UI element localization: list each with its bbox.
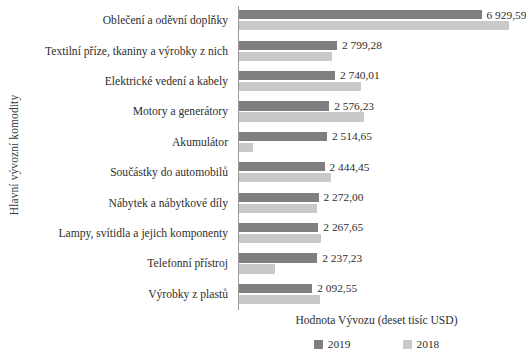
category-label-row: Motory a generátory xyxy=(28,97,234,127)
bar-2018 xyxy=(239,204,317,213)
category-label: Lampy, svítidla a jejich komponenty xyxy=(28,227,228,241)
x-axis-title: Hodnota Vývozu (deset tisíc USD) xyxy=(238,314,515,327)
bar-2018 xyxy=(239,112,364,121)
table-row: 2 514,65 xyxy=(239,128,512,158)
category-label: Součástky do automobilů xyxy=(28,166,228,180)
category-label-row: Oblečení a oděvní doplňky xyxy=(28,6,234,36)
table-row: 2 237,23 xyxy=(239,249,512,279)
bar-group: 2 740,01 xyxy=(239,67,512,97)
legend-label: 2019 xyxy=(328,338,351,350)
bar-2019 xyxy=(239,132,327,141)
bar-group: 2 092,55 xyxy=(239,280,512,310)
category-label-row: Elektrické vedení a kabely xyxy=(28,67,234,97)
bar-2019 xyxy=(239,284,312,293)
table-row: 2 267,65 xyxy=(239,219,512,249)
plot-area: Oblečení a oděvní doplňkyTextilní příze,… xyxy=(28,6,512,310)
bar-group: 2 514,65 xyxy=(239,128,512,158)
bar-value-label: 2 267,65 xyxy=(318,221,363,233)
category-label-row: Nábytek a nábytkové díly xyxy=(28,188,234,218)
category-label: Výrobky z plastů xyxy=(28,288,228,302)
bar-2019 xyxy=(239,71,335,80)
bar-value-label: 6 929,59 xyxy=(482,9,526,21)
bar-2019 xyxy=(239,10,482,19)
bar-2018 xyxy=(239,52,332,61)
category-label: Textilní příze, tkaniny a výrobky z nich xyxy=(28,45,228,59)
category-label-row: Akumulátor xyxy=(28,128,234,158)
legend-item-2019[interactable]: 2019 xyxy=(314,338,351,350)
table-row: 6 929,59 xyxy=(239,6,512,36)
category-label: Telefonní přístroj xyxy=(28,258,228,272)
bar-group: 2 272,00 xyxy=(239,188,512,218)
category-labels: Oblečení a oděvní doplňkyTextilní příze,… xyxy=(28,6,234,310)
category-label-row: Lampy, svítidla a jejich komponenty xyxy=(28,219,234,249)
y-axis-title-text: Hlavní vývozní komodity xyxy=(8,95,20,215)
bar-2019 xyxy=(239,193,319,202)
bar-value-label: 2 514,65 xyxy=(327,130,372,142)
category-label: Nábytek a nábytkové díly xyxy=(28,197,228,211)
table-row: 2 272,00 xyxy=(239,188,512,218)
bar-group: 6 929,59 xyxy=(239,6,512,36)
bar-group: 2 799,28 xyxy=(239,36,512,66)
bar-2018 xyxy=(239,264,275,273)
bar-group: 2 237,23 xyxy=(239,249,512,279)
bar-2018 xyxy=(239,173,331,182)
bar-group: 2 444,45 xyxy=(239,158,512,188)
bar-2019 xyxy=(239,253,317,262)
category-label-row: Telefonní přístroj xyxy=(28,249,234,279)
bar-2019 xyxy=(239,162,325,171)
legend-swatch-icon xyxy=(314,340,323,349)
category-label-row: Textilní příze, tkaniny a výrobky z nich xyxy=(28,36,234,66)
category-label: Akumulátor xyxy=(28,136,228,150)
bar-2019 xyxy=(239,41,337,50)
bars-area: 6 929,592 799,282 740,012 576,232 514,65… xyxy=(238,6,512,310)
table-row: 2 740,01 xyxy=(239,67,512,97)
legend-label: 2018 xyxy=(417,338,440,350)
chart-legend: 20192018 xyxy=(238,338,515,350)
category-label: Motory a generátory xyxy=(28,106,228,120)
table-row: 2 576,23 xyxy=(239,97,512,127)
bar-value-label: 2 092,55 xyxy=(312,282,357,294)
table-row: 2 092,55 xyxy=(239,280,512,310)
category-label: Elektrické vedení a kabely xyxy=(28,75,228,89)
table-row: 2 799,28 xyxy=(239,36,512,66)
bar-2018 xyxy=(239,82,361,91)
bar-2018 xyxy=(239,143,253,152)
bar-value-label: 2 799,28 xyxy=(337,39,382,51)
bar-value-label: 2 740,01 xyxy=(335,69,380,81)
table-row: 2 444,45 xyxy=(239,158,512,188)
category-label-row: Výrobky z plastů xyxy=(28,280,234,310)
y-axis-title: Hlavní vývozní komodity xyxy=(0,0,28,310)
category-label: Oblečení a oděvní doplňky xyxy=(28,14,228,28)
legend-item-2018[interactable]: 2018 xyxy=(403,338,440,350)
category-label-row: Součástky do automobilů xyxy=(28,158,234,188)
bar-2019 xyxy=(239,223,318,232)
bar-2018 xyxy=(239,295,320,304)
legend-swatch-icon xyxy=(403,340,412,349)
bar-value-label: 2 272,00 xyxy=(319,191,364,203)
bar-2018 xyxy=(239,21,509,30)
bar-group: 2 576,23 xyxy=(239,97,512,127)
bar-value-label: 2 444,45 xyxy=(325,161,370,173)
bar-value-label: 2 237,23 xyxy=(317,252,362,264)
bar-2018 xyxy=(239,234,321,243)
bar-value-label: 2 576,23 xyxy=(329,100,374,112)
bar-2019 xyxy=(239,101,329,110)
bar-group: 2 267,65 xyxy=(239,219,512,249)
